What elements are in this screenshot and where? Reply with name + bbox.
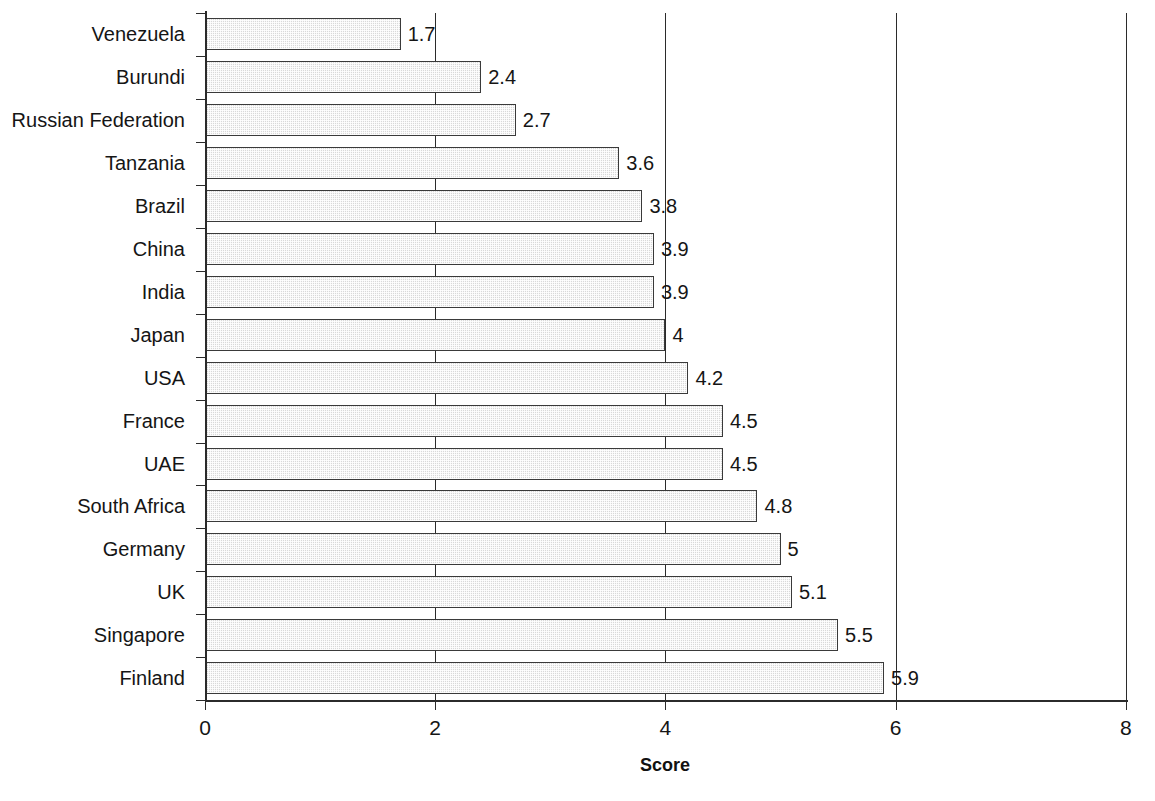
x-tick-2 [435, 700, 436, 710]
bar-value-label: 4.2 [695, 365, 723, 391]
bar-row: 4 [0, 314, 1155, 357]
bar [205, 61, 481, 93]
bar [205, 276, 654, 308]
bar [205, 533, 781, 565]
bar-row: 3.9 [0, 228, 1155, 271]
bar [205, 490, 757, 522]
bar-value-label: 1.7 [408, 21, 436, 47]
bar-value-label: 3.8 [649, 193, 677, 219]
bar-row: 2.4 [0, 56, 1155, 99]
bar [205, 233, 654, 265]
bar [205, 319, 665, 351]
x-tick-label-8: 8 [1096, 716, 1155, 740]
bar [205, 190, 642, 222]
x-axis-line [205, 700, 1128, 702]
bar-row: 3.9 [0, 271, 1155, 314]
bar-value-label: 4.5 [730, 451, 758, 477]
bar [205, 576, 792, 608]
bar-value-label: 4 [672, 322, 683, 348]
bar [205, 405, 723, 437]
bar-row: 5.9 [0, 657, 1155, 700]
bar-row: 4.5 [0, 400, 1155, 443]
bar-row: 5.1 [0, 571, 1155, 614]
x-tick-8 [1126, 700, 1127, 710]
bar [205, 619, 838, 651]
bar-value-label: 5.1 [799, 579, 827, 605]
x-axis-title: Score [515, 755, 815, 776]
x-tick-label-2: 2 [405, 716, 465, 740]
bar-row: 3.6 [0, 142, 1155, 185]
bar [205, 147, 619, 179]
bar-row: 3.8 [0, 185, 1155, 228]
x-tick-0 [205, 700, 206, 710]
x-tick-label-0: 0 [175, 716, 235, 740]
bar-value-label: 4.8 [764, 493, 792, 519]
bar-chart: VenezuelaBurundiRussian FederationTanzan… [0, 0, 1155, 801]
bar-value-label: 4.5 [730, 408, 758, 434]
bar-row: 5 [0, 528, 1155, 571]
bar-row: 2.7 [0, 99, 1155, 142]
bar [205, 662, 884, 694]
bar-row: 4.2 [0, 357, 1155, 400]
bar [205, 104, 516, 136]
bar-row: 1.7 [0, 13, 1155, 56]
x-tick-label-4: 4 [635, 716, 695, 740]
bar-value-label: 5.5 [845, 622, 873, 648]
y-axis-line [205, 11, 207, 702]
bar-value-label: 5 [788, 536, 799, 562]
bar-value-label: 3.9 [661, 236, 689, 262]
bar-value-label: 2.4 [488, 64, 516, 90]
bar-value-label: 5.9 [891, 665, 919, 691]
bar [205, 362, 688, 394]
x-tick-label-6: 6 [866, 716, 926, 740]
bar-value-label: 3.9 [661, 279, 689, 305]
bar [205, 448, 723, 480]
bar-value-label: 2.7 [523, 107, 551, 133]
x-tick-6 [896, 700, 897, 710]
bar-row: 4.5 [0, 443, 1155, 486]
bar [205, 18, 401, 50]
bar-row: 5.5 [0, 614, 1155, 657]
bar-row: 4.8 [0, 485, 1155, 528]
bar-value-label: 3.6 [626, 150, 654, 176]
x-tick-4 [665, 700, 666, 710]
